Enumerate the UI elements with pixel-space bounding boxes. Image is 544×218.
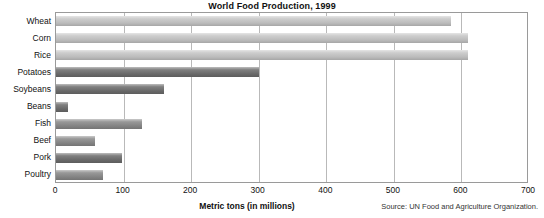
x-tick-200: 200	[183, 185, 197, 195]
x-tick-0: 0	[53, 185, 58, 195]
x-tick-500: 500	[386, 185, 400, 195]
x-tick-300: 300	[251, 185, 265, 195]
bar-rice	[56, 50, 468, 60]
x-tick-100: 100	[115, 185, 129, 195]
category-label-soybeans: Soybeans	[0, 84, 51, 94]
category-label-beef: Beef	[0, 135, 51, 145]
bar-wheat	[56, 16, 451, 26]
category-label-poultry: Poultry	[0, 169, 51, 179]
bar-poultry	[56, 170, 103, 180]
x-tick-600: 600	[453, 185, 467, 195]
category-label-potatoes: Potatoes	[0, 67, 51, 77]
x-axis-tick-labels: 0100200300400500600700	[0, 185, 544, 197]
category-label-wheat: Wheat	[0, 16, 51, 26]
x-axis-title: Metric tons (in millions)	[199, 201, 294, 211]
chart-title: World Food Production, 1999	[0, 1, 544, 11]
bar-row	[56, 133, 527, 150]
bar-row	[56, 81, 527, 98]
bar-potatoes	[56, 67, 259, 77]
bar-row	[56, 13, 527, 30]
bar-row	[56, 30, 527, 47]
x-tick-700: 700	[521, 185, 535, 195]
bar-fish	[56, 119, 142, 129]
bar-chart-figure: World Food Production, 1999 WheatCornRic…	[0, 0, 544, 218]
bar-soybeans	[56, 84, 164, 94]
category-label-beans: Beans	[0, 101, 51, 111]
category-label-fish: Fish	[0, 118, 51, 128]
bar-row	[56, 99, 527, 116]
plot-area	[55, 12, 528, 183]
x-tick-400: 400	[318, 185, 332, 195]
category-label-corn: Corn	[0, 33, 51, 43]
category-axis-labels: WheatCornRicePotatoesSoybeansBeansFishBe…	[0, 12, 51, 183]
category-label-pork: Pork	[0, 152, 51, 162]
bar-beans	[56, 102, 68, 112]
category-label-rice: Rice	[0, 50, 51, 60]
bar-row	[56, 47, 527, 64]
bar-row	[56, 150, 527, 167]
source-note: Source: UN Food and Agriculture Organiza…	[381, 202, 538, 211]
bar-corn	[56, 33, 468, 43]
bar-row	[56, 64, 527, 81]
bar-pork	[56, 153, 122, 163]
bar-row	[56, 116, 527, 133]
bar-series	[56, 13, 527, 182]
bar-beef	[56, 136, 95, 146]
bar-row	[56, 167, 527, 184]
